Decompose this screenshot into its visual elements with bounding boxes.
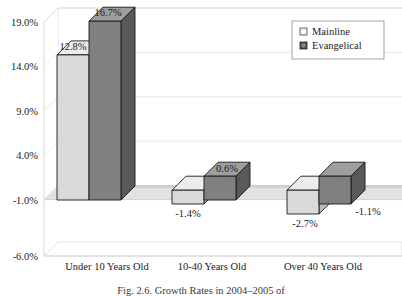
legend-label: Evangelical (312, 40, 362, 51)
figure-caption-text: Fig. 2.6. Growth Rates in 2004–2005 of (117, 285, 285, 296)
x-category-label: Under 10 Years Old (65, 261, 149, 272)
x-axis-category-labels: Under 10 Years Old 10-40 Years Old Over … (65, 261, 363, 272)
y-tick-label: 19.0% (11, 17, 38, 28)
growth-rates-3d-bar-chart: 19.0% 14.0% 9.0% 4.0% -1.0% -6.0% 12.8% … (0, 0, 402, 296)
y-tick-label: -6.0% (13, 251, 39, 262)
plot-left-wall (44, 8, 58, 256)
chart-legend[interactable]: Mainline Evangelical (292, 21, 384, 59)
y-tick-label: 14.0% (11, 61, 38, 72)
y-axis-tick-labels: 19.0% 14.0% 9.0% 4.0% -1.0% -6.0% (11, 17, 38, 262)
bar-value-label: -1.4% (175, 208, 201, 219)
bar-value-label: -2.7% (292, 218, 318, 229)
bar-value-label: 16.7% (94, 7, 121, 18)
light-swatch-inner-icon (302, 30, 306, 34)
chart-container: 19.0% 14.0% 9.0% 4.0% -1.0% -6.0% 12.8% … (0, 0, 402, 296)
bar-evangelical-under-10[interactable] (89, 7, 135, 200)
bar-value-label: 12.8% (59, 41, 86, 52)
bar-value-label: -1.1% (355, 206, 381, 217)
figure-caption: Fig. 2.6. Growth Rates in 2004–2005 of (117, 285, 285, 296)
dark-swatch-inner-icon (302, 44, 306, 48)
x-category-label: 10-40 Years Old (178, 261, 247, 272)
legend-label: Mainline (312, 26, 350, 37)
y-tick-label: 4.0% (16, 150, 38, 161)
x-category-label: Over 40 Years Old (284, 261, 363, 272)
y-tick-label: -1.0% (13, 195, 39, 206)
bar-value-label: 0.6% (216, 163, 238, 174)
y-tick-label: 9.0% (16, 106, 38, 117)
